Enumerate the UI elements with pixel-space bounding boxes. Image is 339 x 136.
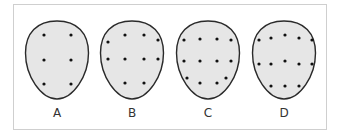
dot xyxy=(310,38,313,41)
dot xyxy=(215,59,218,62)
label-a: A xyxy=(53,106,62,120)
dot xyxy=(185,76,188,79)
dot xyxy=(156,38,159,41)
dot xyxy=(106,40,109,43)
label-d: D xyxy=(279,106,288,120)
dot xyxy=(310,62,313,65)
panel-b: B xyxy=(101,21,164,120)
dot xyxy=(69,58,72,61)
panel-c: C xyxy=(177,21,240,120)
dot xyxy=(269,84,272,87)
dot xyxy=(229,38,232,41)
dot xyxy=(297,62,300,65)
dot xyxy=(297,84,300,87)
dot xyxy=(142,81,145,84)
dot xyxy=(198,37,201,40)
dot xyxy=(269,36,272,39)
panel-d: D xyxy=(253,21,316,120)
dot xyxy=(198,59,201,62)
panel-a: A xyxy=(26,21,89,120)
dot xyxy=(215,37,218,40)
dot xyxy=(215,81,218,84)
dot xyxy=(297,36,300,39)
dot xyxy=(182,38,185,41)
dot xyxy=(123,33,126,36)
dot xyxy=(283,59,286,62)
dot xyxy=(123,57,126,60)
dot xyxy=(142,57,145,60)
dot xyxy=(269,62,272,65)
dot xyxy=(283,84,286,87)
dot xyxy=(106,57,109,60)
dot xyxy=(156,57,159,60)
egg-shape-b xyxy=(101,21,164,99)
dot xyxy=(229,59,232,62)
egg-dot-diagram: A B C D xyxy=(0,0,339,136)
dot xyxy=(224,76,227,79)
dot xyxy=(257,62,260,65)
dot xyxy=(257,38,260,41)
dot xyxy=(69,33,72,36)
dot xyxy=(42,82,45,85)
dot xyxy=(182,59,185,62)
dot xyxy=(42,58,45,61)
dot xyxy=(42,33,45,36)
dot xyxy=(142,33,145,36)
label-c: C xyxy=(204,106,212,120)
egg-shape-a xyxy=(26,21,89,99)
label-b: B xyxy=(128,106,136,120)
dot xyxy=(283,33,286,36)
dot xyxy=(69,82,72,85)
dot xyxy=(198,81,201,84)
dot xyxy=(123,81,126,84)
